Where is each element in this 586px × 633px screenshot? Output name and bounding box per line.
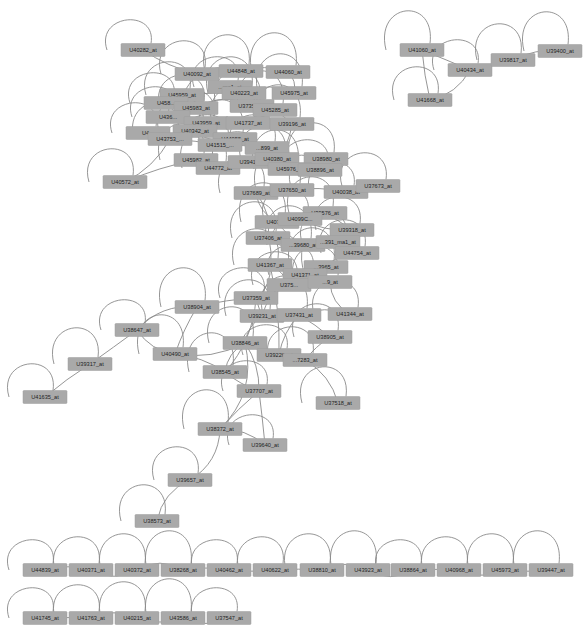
gene-node[interactable]: U39318_at bbox=[330, 224, 374, 237]
gene-node[interactable]: U40372_at bbox=[115, 564, 159, 577]
gene-node[interactable]: U38647_at bbox=[115, 324, 159, 337]
node-label: U39447_at bbox=[537, 567, 565, 573]
gene-node[interactable]: U41745_at bbox=[23, 612, 67, 625]
gene-node[interactable]: U45975_at bbox=[272, 87, 316, 100]
node-label: U37673_at bbox=[364, 183, 392, 189]
gene-node[interactable]: U45285_at bbox=[253, 104, 297, 117]
edge bbox=[422, 50, 430, 100]
gene-node[interactable]: U40092_at bbox=[175, 68, 219, 81]
gene-node[interactable]: U38896_at bbox=[298, 164, 342, 177]
gene-node[interactable]: U44848_at bbox=[219, 65, 263, 78]
gene-node[interactable]: U40371_at bbox=[69, 564, 113, 577]
node-label: U40380_at bbox=[263, 156, 291, 162]
node-label: U38372_at bbox=[206, 426, 234, 432]
gene-node[interactable]: U39317_at bbox=[68, 358, 112, 371]
node-label: U40215_at bbox=[123, 615, 151, 621]
gene-node[interactable]: ...7283_at bbox=[283, 354, 327, 367]
gene-node[interactable]: U40282_at bbox=[121, 44, 165, 57]
gene-node[interactable]: U44839_at bbox=[23, 564, 67, 577]
node-label: U38573_at bbox=[143, 518, 171, 524]
gene-node[interactable]: U38864_at bbox=[391, 564, 435, 577]
node-label: U40462_at bbox=[215, 567, 243, 573]
gene-node[interactable]: U44060_at bbox=[266, 66, 310, 79]
node-label: U41060_at bbox=[408, 47, 436, 53]
node-label: U38846_at bbox=[231, 340, 259, 346]
node-label: U44060_at bbox=[274, 69, 302, 75]
gene-node[interactable]: U37359_at bbox=[234, 292, 278, 305]
node-label: U43753_... bbox=[156, 136, 184, 142]
gene-node[interactable]: U40462_at bbox=[207, 564, 251, 577]
network-graph: U40282_atU40092_atU44848_atU44060_at...m… bbox=[0, 0, 586, 633]
gene-node[interactable]: U43586_at bbox=[161, 612, 205, 625]
node-label: U41515_... bbox=[206, 142, 234, 148]
gene-node[interactable]: U43753_... bbox=[148, 133, 192, 146]
gene-node[interactable]: U39196_at bbox=[270, 118, 314, 131]
gene-node[interactable]: U38905_at bbox=[308, 331, 352, 344]
gene-node[interactable]: U45973_at bbox=[483, 564, 527, 577]
node-label: U39196_at bbox=[278, 121, 306, 127]
gene-node[interactable]: U37547_at bbox=[207, 612, 251, 625]
gene-node[interactable]: U40490_at bbox=[153, 348, 197, 361]
gene-node[interactable]: U40434_at bbox=[448, 64, 492, 77]
gene-node[interactable]: U41763_at bbox=[69, 612, 113, 625]
node-label: U39318_at bbox=[338, 227, 366, 233]
node-label: U40092_at bbox=[183, 71, 211, 77]
gene-node[interactable]: U37431_at bbox=[277, 309, 321, 322]
gene-node[interactable]: U40968_at bbox=[437, 564, 481, 577]
gene-node[interactable]: U38545_at bbox=[203, 366, 247, 379]
gene-node[interactable]: U39817_at bbox=[491, 54, 535, 67]
node-label: U38896_at bbox=[306, 167, 334, 173]
gene-node[interactable]: U39400_at bbox=[538, 45, 582, 58]
gene-node[interactable]: U4099C... bbox=[278, 213, 322, 226]
gene-node[interactable]: U40622_at bbox=[253, 564, 297, 577]
gene-node[interactable]: U40223_at bbox=[222, 87, 266, 100]
gene-node[interactable]: U38810_at bbox=[300, 564, 344, 577]
node-label: U4099C... bbox=[287, 216, 313, 222]
node-label: U45983_at bbox=[182, 105, 210, 111]
gene-node[interactable]: U41737_at bbox=[226, 117, 270, 130]
gene-node[interactable]: U41515_... bbox=[198, 139, 242, 152]
gene-node[interactable]: U44754_at bbox=[335, 247, 379, 260]
node-label: U40968_at bbox=[445, 567, 473, 573]
gene-node[interactable]: U37673_at bbox=[356, 180, 400, 193]
gene-node[interactable]: U38573_at bbox=[135, 515, 179, 528]
gene-node[interactable]: U375... bbox=[267, 279, 311, 292]
node-label: U39317_at bbox=[76, 361, 104, 367]
gene-node[interactable]: ...9_at bbox=[308, 276, 352, 289]
node-label: U44839_at bbox=[31, 567, 59, 573]
node-label: U38980_at bbox=[312, 156, 340, 162]
gene-node[interactable]: U38268_at bbox=[161, 564, 205, 577]
node-label: U39817_at bbox=[499, 57, 527, 63]
gene-node[interactable]: U38372_at bbox=[198, 423, 242, 436]
node-label: U40371_at bbox=[77, 567, 105, 573]
gene-node[interactable]: U41344_at bbox=[328, 308, 372, 321]
node-label: U41635_at bbox=[31, 394, 59, 400]
gene-node[interactable]: U38846_at bbox=[223, 337, 267, 350]
gene-node[interactable]: U37707_at bbox=[237, 385, 281, 398]
node-label: ...391_ma1_at bbox=[320, 239, 356, 245]
nodes-layer: U40282_atU40092_atU44848_atU44060_at...m… bbox=[23, 44, 582, 625]
gene-node[interactable]: U37650_at bbox=[270, 184, 314, 197]
node-label: U39657_at bbox=[176, 477, 204, 483]
gene-node[interactable]: U40215_at bbox=[115, 612, 159, 625]
edge bbox=[175, 307, 197, 354]
gene-node[interactable]: U41635_at bbox=[23, 391, 67, 404]
gene-node[interactable]: U43923_at bbox=[346, 564, 390, 577]
node-label: U41367_at bbox=[256, 262, 284, 268]
node-label: U39400_at bbox=[546, 48, 574, 54]
node-label: U37547_at bbox=[215, 615, 243, 621]
node-label: U41737_at bbox=[234, 120, 262, 126]
gene-node[interactable]: U39657_at bbox=[168, 474, 212, 487]
gene-node[interactable]: U39447_at bbox=[529, 564, 573, 577]
node-label: U436... bbox=[159, 114, 177, 120]
gene-node[interactable]: U40572_at bbox=[103, 176, 147, 189]
gene-node[interactable]: U41668_at bbox=[408, 94, 452, 107]
gene-node[interactable]: U41060_at bbox=[400, 44, 444, 57]
gene-node[interactable]: U39640_at bbox=[243, 439, 287, 452]
gene-node[interactable]: U38904_at bbox=[175, 301, 219, 314]
gene-node[interactable]: U436... bbox=[146, 111, 190, 124]
node-label: U39640_at bbox=[251, 442, 279, 448]
gene-node[interactable]: U37518_at bbox=[316, 397, 360, 410]
node-label: ...899_at bbox=[256, 145, 278, 151]
node-label: U37406_at bbox=[254, 235, 282, 241]
